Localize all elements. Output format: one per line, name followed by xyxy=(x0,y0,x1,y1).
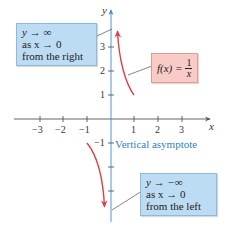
function-lhs: f(x) = xyxy=(157,62,182,74)
y-axis-label: y xyxy=(102,4,107,16)
y-tick-label: 3 xyxy=(100,41,105,52)
callout-left-limit: y → −∞ as x → 0 from the left xyxy=(140,173,217,216)
callout-line: from the right xyxy=(22,50,92,62)
x-tick-label: 3 xyxy=(179,124,184,135)
vertical-asymptote-label: Vertical asymptote xyxy=(115,138,197,150)
y-tick-label: 1 xyxy=(100,89,105,100)
callout-line: from the left xyxy=(146,200,212,212)
y-axis xyxy=(108,10,114,222)
x-axis-label: x xyxy=(209,120,214,132)
x-axis xyxy=(14,116,210,122)
curve-left-branch xyxy=(87,143,105,207)
x-tick-label: 1 xyxy=(131,124,136,135)
x-tick-label: −3 xyxy=(32,124,43,135)
callout-line: y → ∞ xyxy=(22,26,92,38)
callout-pointer-bottom xyxy=(112,191,142,210)
callout-right-limit: y → ∞ as x → 0 from the right xyxy=(16,23,97,66)
fraction-numerator: 1 xyxy=(185,58,192,69)
x-tick-label: −2 xyxy=(55,124,66,135)
x-tick-label: −1 xyxy=(79,124,90,135)
callout-function-label: f(x) = 1 x xyxy=(151,53,198,83)
x-tick-label: 2 xyxy=(155,124,160,135)
fraction: 1 x xyxy=(185,58,192,79)
y-tick-label: 2 xyxy=(100,65,105,76)
callout-line: as x → 0 xyxy=(22,38,92,50)
callout-line: as x → 0 xyxy=(146,188,212,200)
callout-pointer-function xyxy=(128,66,152,75)
curve-right-branch xyxy=(118,31,135,95)
callout-line: y → −∞ xyxy=(146,176,212,188)
fraction-denominator: x xyxy=(187,69,191,79)
y-tick-label: −1 xyxy=(94,137,105,148)
